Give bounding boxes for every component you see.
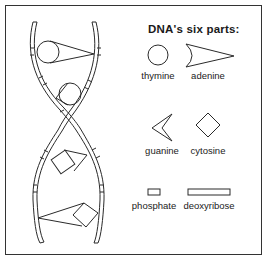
cytosine-legend-icon	[196, 113, 220, 137]
phosphate-legend-icon	[148, 189, 160, 195]
legend-title: DNA's six parts:	[148, 23, 240, 35]
guanine-legend-icon	[152, 114, 172, 141]
legend-label-deoxyribose: deoxyribose	[169, 200, 249, 211]
base-pair-4	[38, 203, 98, 227]
deoxyribose-legend-icon	[188, 189, 230, 195]
legend-label-cytosine: cytosine	[168, 145, 248, 156]
base-pair-2	[56, 83, 81, 105]
thymine-legend-icon	[148, 45, 168, 65]
thymine-circle	[37, 41, 59, 63]
legend-label-adenine: adenine	[168, 70, 248, 81]
base-pair-1	[37, 41, 94, 63]
base-pair-3	[49, 148, 87, 176]
dna-helix-diagram	[0, 0, 269, 262]
adenine-legend-icon	[186, 44, 192, 67]
helix-strand-left-lower	[33, 130, 62, 243]
helix-strand-left-upper	[30, 22, 80, 130]
